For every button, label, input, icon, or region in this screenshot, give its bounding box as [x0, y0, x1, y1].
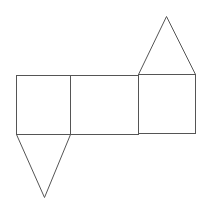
top-triangle-face: [139, 17, 196, 75]
right-square-face: [139, 75, 196, 134]
middle-rect-face: [71, 76, 139, 135]
left-square-face: [17, 76, 71, 135]
net-diagram-svg: [0, 0, 201, 208]
bottom-triangle-face: [17, 135, 71, 198]
faces-group: [17, 17, 196, 198]
net-diagram: [0, 0, 201, 208]
